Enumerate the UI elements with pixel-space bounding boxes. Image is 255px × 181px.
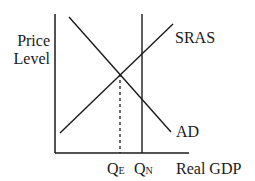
y-axis-label: Price Level [6, 32, 50, 68]
y-axis-label-line1: Price [6, 32, 50, 50]
diagram-canvas [0, 0, 255, 181]
ad-label: AD [176, 123, 199, 141]
sras-label: SRAS [175, 29, 215, 47]
y-axis-label-line2: Level [6, 50, 50, 68]
qe-main: Q [107, 160, 119, 177]
qe-subscript: E [119, 165, 125, 176]
x-axis-label: Real GDP [176, 160, 241, 178]
qn-main: Q [134, 160, 146, 177]
sras-curve [60, 24, 173, 133]
qe-label: QE [107, 160, 125, 180]
qn-subscript: N [146, 165, 153, 176]
qn-label: QN [134, 160, 153, 180]
